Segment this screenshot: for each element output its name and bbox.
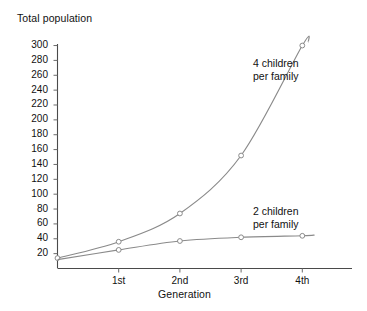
series-label-2-children: 2 children per family [253, 205, 299, 231]
data-point-marker [116, 248, 121, 253]
data-point-marker [178, 239, 183, 244]
series-label-2-children-line1: 2 children [253, 205, 299, 218]
series-label-4-children-line2: per family [253, 70, 299, 83]
data-point-marker [178, 211, 183, 216]
data-point-marker [116, 239, 121, 244]
population-growth-chart: Total population Generation 300280260240… [0, 0, 367, 311]
series-label-4-children-line1: 4 children [253, 57, 299, 70]
data-point-marker [300, 43, 305, 48]
series-curve-2-children [58, 235, 315, 260]
axes-group [58, 44, 353, 269]
data-point-marker [300, 233, 305, 238]
x-axis-ticks [119, 269, 303, 273]
data-point-marker [239, 235, 244, 240]
y-axis-ticks [54, 46, 58, 254]
data-point-marker [239, 153, 244, 158]
series-label-2-children-line2: per family [253, 218, 299, 231]
series-label-4-children: 4 children per family [253, 57, 299, 83]
plot-area [0, 0, 367, 311]
